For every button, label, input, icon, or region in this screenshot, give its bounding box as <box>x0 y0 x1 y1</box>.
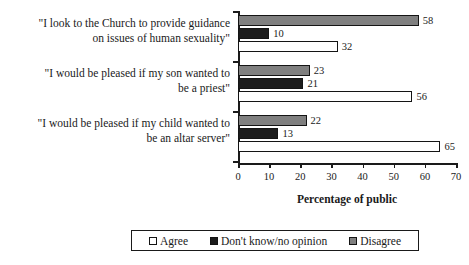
bar-value-agree-son-priest: 56 <box>416 91 427 102</box>
category-label-church-guidance: "I look to the Church to provide guidanc… <box>12 16 230 46</box>
bar-disagree-son-priest <box>238 65 310 76</box>
clipped-header-text <box>22 0 322 1</box>
bar-value-dontknow-son-priest: 21 <box>307 78 318 89</box>
legend-item-dontknow[interactable]: Don't know/no opinion <box>210 235 327 247</box>
x-axis-tick <box>238 163 240 168</box>
x-axis-tick <box>331 163 333 168</box>
legend-label-disagree: Disagree <box>360 235 401 247</box>
x-axis-tick <box>394 163 396 168</box>
bar-agree-son-priest <box>238 91 412 102</box>
legend-swatch-agree-icon <box>149 237 157 245</box>
chart-legend: Agree Don't know/no opinion Disagree <box>131 230 419 251</box>
bar-chart: "I look to the Church to provide guidanc… <box>0 0 469 265</box>
category-label-son-priest: "I would be pleased if my son wanted to … <box>12 66 230 96</box>
x-axis-tick <box>300 163 302 168</box>
x-axis-tick-label: 0 <box>225 171 251 182</box>
x-axis-tick-label: 60 <box>412 171 438 182</box>
legend-item-disagree[interactable]: Disagree <box>349 235 401 247</box>
x-axis-tick <box>456 163 458 168</box>
bar-disagree-child-altar-server <box>238 115 307 126</box>
x-axis-tick-label: 70 <box>443 171 469 182</box>
bar-dontknow-church-guidance <box>238 28 269 39</box>
x-axis-title: Percentage of public <box>238 193 456 205</box>
category-label-line1: "I would be pleased if my son wanted to <box>12 66 230 81</box>
bar-disagree-church-guidance <box>238 15 419 26</box>
x-axis-tick-label: 40 <box>350 171 376 182</box>
x-axis-tick-label: 30 <box>318 171 344 182</box>
category-label-line1: "I look to the Church to provide guidanc… <box>12 16 230 31</box>
legend-swatch-disagree-icon <box>349 237 357 245</box>
category-label-line2: be a priest" <box>12 81 230 96</box>
x-axis-tick-label: 50 <box>381 171 407 182</box>
y-axis-tick <box>233 111 239 113</box>
bar-dontknow-child-altar-server <box>238 128 278 139</box>
legend-label-agree: Agree <box>160 235 188 247</box>
y-axis-tick <box>233 61 239 63</box>
plot-area: 0 10 20 30 40 50 60 70 58 10 32 23 21 56… <box>238 11 456 163</box>
category-label-line2: on issues of human sexuality" <box>12 31 230 46</box>
category-label-line2: be an altar server" <box>12 131 230 146</box>
bar-value-dontknow-child-altar-server: 13 <box>282 128 293 139</box>
bar-value-dontknow-church-guidance: 10 <box>273 28 284 39</box>
x-axis-tick <box>425 163 427 168</box>
bar-value-disagree-son-priest: 23 <box>314 65 325 76</box>
bar-value-disagree-child-altar-server: 22 <box>311 115 322 126</box>
bar-value-agree-child-altar-server: 65 <box>444 141 455 152</box>
legend-item-agree[interactable]: Agree <box>149 235 188 247</box>
y-axis-tick <box>233 11 239 13</box>
bar-value-disagree-church-guidance: 58 <box>423 15 434 26</box>
bar-dontknow-son-priest <box>238 78 303 89</box>
x-axis-tick-label: 20 <box>287 171 313 182</box>
x-axis-tick <box>363 163 365 168</box>
legend-swatch-dontknow-icon <box>210 237 218 245</box>
legend-label-dontknow: Don't know/no opinion <box>221 235 327 247</box>
bar-agree-child-altar-server <box>238 141 440 152</box>
bar-agree-church-guidance <box>238 41 338 52</box>
category-label-line1: "I would be pleased if my child wanted t… <box>12 116 230 131</box>
category-label-child-altar-server: "I would be pleased if my child wanted t… <box>12 116 230 146</box>
x-axis-tick-label: 10 <box>256 171 282 182</box>
x-axis-tick <box>269 163 271 168</box>
bar-value-agree-church-guidance: 32 <box>342 41 353 52</box>
